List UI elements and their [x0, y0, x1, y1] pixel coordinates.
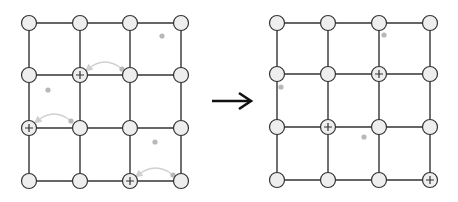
grid-node-plus [22, 121, 37, 136]
grid-node [321, 67, 336, 82]
grid-node [372, 173, 387, 188]
grid-transition-diagram [0, 0, 458, 202]
particle-dot [381, 32, 386, 37]
left-grid-before [22, 16, 189, 189]
grid-node-plus [423, 173, 438, 188]
particle-dot [45, 87, 50, 92]
grid-node [423, 120, 438, 135]
particle-dot [361, 134, 366, 139]
move-origin-dot [68, 118, 73, 123]
move-arrow-icon [88, 62, 122, 69]
grid-node [270, 16, 285, 31]
grid-node [22, 16, 37, 31]
grid-node [73, 121, 88, 136]
grid-node [73, 174, 88, 189]
grid-node [174, 68, 189, 83]
grid-node [22, 68, 37, 83]
grid-node [123, 68, 138, 83]
grid-node [321, 173, 336, 188]
grid-node [174, 16, 189, 31]
grid-node-plus [372, 67, 387, 82]
particle-dot [159, 33, 164, 38]
particle-dot [278, 84, 283, 89]
grid-node-plus [321, 120, 336, 135]
grid-node [174, 121, 189, 136]
grid-node [22, 174, 37, 189]
move-arrow-icon [138, 168, 173, 175]
grid-node [423, 16, 438, 31]
right-grid-edges [277, 23, 430, 180]
right-grid-after [270, 16, 438, 188]
grid-node [174, 174, 189, 189]
grid-node [321, 16, 336, 31]
grid-node [270, 173, 285, 188]
grid-node [73, 16, 88, 31]
grid-node [270, 67, 285, 82]
move-arrow-icon [37, 114, 71, 121]
particle-dot [152, 139, 157, 144]
diagram-stage [0, 0, 458, 202]
grid-node [123, 16, 138, 31]
transition-arrow-icon [212, 93, 251, 109]
grid-node-plus [123, 174, 138, 189]
grid-node-plus [73, 68, 88, 83]
left-grid-edges [29, 23, 181, 181]
grid-node [372, 16, 387, 31]
grid-node [423, 67, 438, 82]
grid-node [372, 120, 387, 135]
grid-node [123, 121, 138, 136]
grid-node [270, 120, 285, 135]
